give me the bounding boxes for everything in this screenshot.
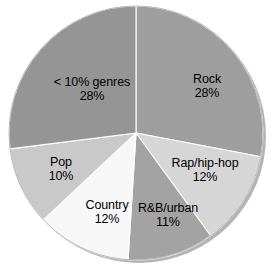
slice-label-name: Rock	[193, 72, 221, 86]
pie-slice-label-rock: Rock28%	[193, 72, 221, 100]
slice-label-value: 11%	[138, 215, 198, 229]
slice-label-name: R&B/urban	[138, 201, 198, 215]
pie-slice-label-country: Country12%	[85, 198, 128, 226]
pie-slice-group	[9, 6, 263, 260]
slice-label-name: Country	[85, 198, 128, 212]
pie-slice-label-pop: Pop10%	[49, 155, 74, 183]
slice-label-value: 12%	[85, 212, 128, 226]
slice-label-value: 28%	[54, 89, 130, 103]
pie-slice-label-r-b-urban: R&B/urban11%	[138, 201, 198, 229]
slice-label-name: < 10% genres	[54, 75, 130, 89]
pie-slice-label-rap-hip-hop: Rap/hip-hop12%	[171, 156, 238, 184]
slice-label-name: Pop	[49, 155, 74, 169]
slice-label-value: 28%	[193, 86, 221, 100]
slice-label-value: 10%	[49, 169, 74, 183]
pie-chart-figure: Rock28%Rap/hip-hop12%R&B/urban11%Country…	[0, 0, 274, 271]
pie-slice-label-10-genres: < 10% genres28%	[54, 75, 130, 103]
pie-chart-canvas	[0, 0, 274, 271]
slice-label-value: 12%	[171, 170, 238, 184]
slice-label-name: Rap/hip-hop	[171, 156, 238, 170]
